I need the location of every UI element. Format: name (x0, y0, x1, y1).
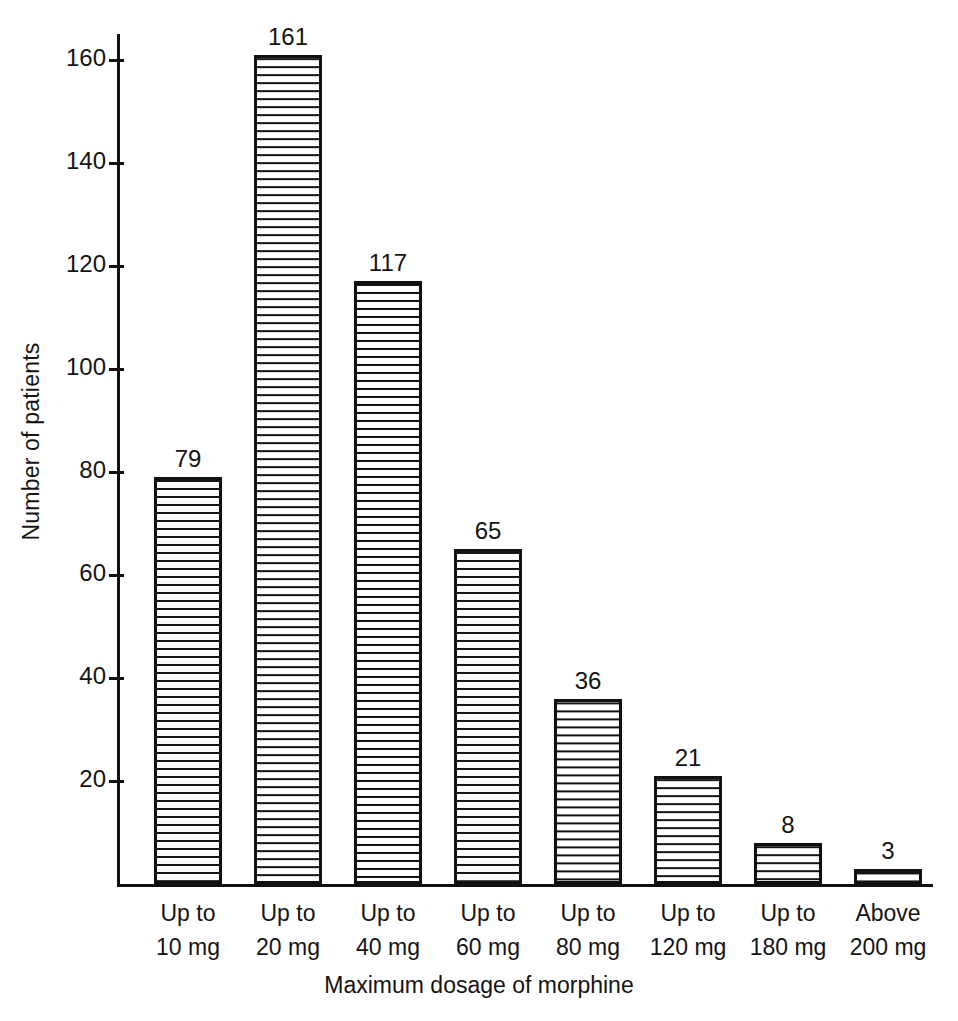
x-axis-category-label-line: Up to (138, 896, 238, 930)
x-axis-category-label: Up to180 mg (738, 896, 838, 964)
bar (654, 776, 722, 884)
bar (854, 869, 922, 884)
y-axis-tick-mark (109, 780, 124, 783)
x-axis-category-label: Up to60 mg (438, 896, 538, 964)
y-axis-tick-label: 160 (66, 44, 106, 72)
x-axis-category-label-line: Up to (438, 896, 538, 930)
x-axis-category-label: Up to20 mg (238, 896, 338, 964)
y-axis-tick-mark (109, 265, 124, 268)
y-axis-tick-mark (109, 677, 124, 680)
x-axis-category-label: Up to10 mg (138, 896, 238, 964)
bar-value-label: 36 (528, 667, 648, 695)
y-axis-tick-label: 100 (66, 353, 106, 381)
bar (554, 699, 622, 884)
bar-value-label: 21 (628, 744, 748, 772)
bar (154, 477, 222, 884)
x-axis-category-label-line: 60 mg (438, 930, 538, 964)
bar (254, 55, 322, 884)
bar-value-label: 117 (328, 249, 448, 277)
x-axis-category-label-line: Up to (538, 896, 638, 930)
x-axis-category-label-line: Up to (638, 896, 738, 930)
bar-value-label: 79 (128, 445, 248, 473)
x-axis-category-label: Up to120 mg (638, 896, 738, 964)
x-axis-category-label-line: Up to (738, 896, 838, 930)
bar (454, 549, 522, 884)
y-axis-tick-label: 40 (79, 662, 106, 690)
x-axis-category-label: Up to40 mg (338, 896, 438, 964)
x-axis-category-label-line: 200 mg (838, 930, 938, 964)
x-axis-category-label-line: 40 mg (338, 930, 438, 964)
y-axis-tick-label: 20 (79, 765, 106, 793)
x-axis-category-label-line: 180 mg (738, 930, 838, 964)
x-axis-category-label-line: 10 mg (138, 930, 238, 964)
bar (754, 843, 822, 884)
x-axis-category-label-line: Above (838, 896, 938, 930)
y-axis-tick-mark (109, 59, 124, 62)
x-axis-category-label: Above200 mg (838, 896, 938, 964)
x-axis-category-label-line: Up to (238, 896, 338, 930)
x-axis-category-label-line: 80 mg (538, 930, 638, 964)
x-axis-category-label-line: Up to (338, 896, 438, 930)
y-axis-tick-label: 60 (79, 559, 106, 587)
y-axis-title: Number of patients (18, 327, 45, 557)
bar-value-label: 8 (728, 811, 848, 839)
x-axis-line (117, 884, 933, 887)
x-axis-category-label: Up to80 mg (538, 896, 638, 964)
y-axis-tick-label: 120 (66, 250, 106, 278)
y-axis-tick-mark (109, 471, 124, 474)
y-axis-tick-label: 140 (66, 147, 106, 175)
y-axis-tick-mark (109, 574, 124, 577)
y-axis-tick-mark (109, 162, 124, 165)
x-axis-title: Maximum dosage of morphine (0, 972, 958, 999)
y-axis-tick-label: 80 (79, 456, 106, 484)
y-axis-tick-mark (109, 368, 124, 371)
x-axis-category-label-line: 120 mg (638, 930, 738, 964)
bar-value-label: 65 (428, 517, 548, 545)
bar-value-label: 3 (828, 837, 948, 865)
bar-chart-figure: Number of patients 20406080100120140160 … (0, 0, 958, 1021)
x-axis-category-label-line: 20 mg (238, 930, 338, 964)
bar-value-label: 161 (228, 23, 348, 51)
bar (354, 281, 422, 884)
